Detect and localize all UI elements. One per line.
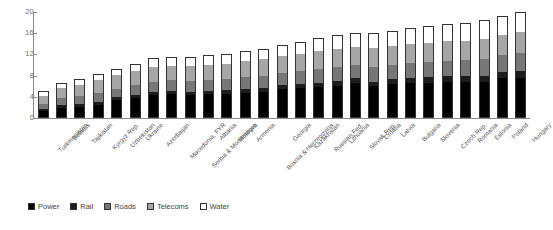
bar-segment-roads [424, 62, 433, 77]
legend-item-power[interactable]: Power [28, 203, 59, 211]
bar-segment-telecoms [278, 56, 287, 73]
bar-segment-water [424, 27, 433, 42]
bar-column [423, 26, 434, 118]
bar-column [148, 58, 159, 118]
bar-segment-roads [241, 77, 250, 89]
bar-column [405, 28, 416, 118]
bar-segment-roads [222, 79, 231, 90]
bar-segment-telecoms [112, 75, 121, 89]
legend-label-rail: Rail [80, 203, 93, 211]
bar-segment-power [131, 98, 140, 117]
bar-segment-roads [314, 69, 323, 82]
bar-segment-water [333, 36, 342, 49]
bar-segment-power [112, 100, 121, 117]
bar-segment-water [222, 55, 231, 64]
bar-segment-power [351, 83, 360, 117]
bar-segment-roads [333, 67, 342, 81]
bar-segment-power [443, 82, 452, 117]
bar-segment-telecoms [167, 66, 176, 80]
legend-label-telecoms: Telecoms [157, 203, 189, 211]
bar-segment-water [480, 21, 489, 38]
legend-swatch-rail [70, 203, 77, 210]
bar-segment-roads [57, 98, 66, 105]
chart-legend: PowerRailRoadsTelecomsWater [28, 203, 229, 211]
bar-column [93, 74, 104, 118]
bar-column [368, 33, 379, 118]
legend-item-water[interactable]: Water [200, 203, 230, 211]
bar-column [442, 24, 453, 118]
legend-item-telecoms[interactable]: Telecoms [147, 203, 189, 211]
x-label-belarus: Belarus [71, 122, 91, 142]
bar-segment-power [333, 86, 342, 117]
bar-segment-water [351, 34, 360, 47]
bar-segment-roads [278, 73, 287, 85]
bar-segment-telecoms [241, 61, 250, 77]
bar-segment-telecoms [333, 49, 342, 67]
bar-segment-power [241, 93, 250, 117]
legend-item-rail[interactable]: Rail [70, 203, 93, 211]
x-label-bulgaria: Bulgaria [420, 122, 441, 143]
bar-segment-telecoms [39, 96, 48, 104]
bar-column [185, 57, 196, 118]
y-tick-label-8: 8 [0, 72, 34, 80]
bar-column [38, 91, 49, 118]
x-label-slovenia: Slovenia [439, 122, 461, 144]
bar-column [277, 45, 288, 118]
legend-label-roads: Roads [114, 203, 136, 211]
bar-segment-telecoms [204, 65, 213, 80]
bar-column [221, 54, 232, 119]
bar-segment-power [222, 94, 231, 117]
bar-segment-roads [149, 82, 158, 92]
x-label-tajikistan: Tajikistan [91, 122, 114, 145]
y-tick-label-16: 16 [0, 29, 34, 37]
bar-segment-power [498, 78, 507, 117]
bar-segment-telecoms [94, 80, 103, 93]
bar-segment-roads [516, 53, 525, 71]
bar-segment-telecoms [461, 41, 470, 61]
bar-segment-water [443, 25, 452, 41]
plot-area [34, 12, 530, 118]
bar-segment-power [516, 78, 525, 117]
y-tick-label-4: 4 [0, 93, 34, 101]
bar-segment-power [57, 108, 66, 117]
legend-swatch-telecoms [147, 203, 154, 210]
y-tick-label-20: 20 [0, 8, 34, 16]
bar-segment-telecoms [314, 51, 323, 70]
bar-segment-power [296, 88, 305, 117]
bar-segment-water [131, 65, 140, 72]
bar-segment-roads [480, 59, 489, 75]
bar-column [387, 31, 398, 118]
bar-segment-water [167, 58, 176, 65]
bar-segment-power [186, 95, 195, 117]
bar-segment-water [259, 50, 268, 60]
bar-segment-power [278, 89, 287, 117]
bar-segment-roads [112, 89, 121, 97]
y-tick-mark-0 [34, 118, 37, 119]
legend-label-power: Power [38, 203, 59, 211]
bar-segment-telecoms [186, 66, 195, 81]
bar-segment-water [516, 13, 525, 32]
bar-segment-telecoms [149, 67, 158, 81]
bar-segment-telecoms [75, 85, 84, 96]
bar-column [203, 55, 214, 118]
bar-segment-telecoms [222, 64, 231, 79]
legend-item-roads[interactable]: Roads [104, 203, 136, 211]
bar-column [479, 20, 490, 118]
x-axis-line [33, 118, 530, 119]
bar-segment-power [94, 105, 103, 117]
bar-segment-telecoms [480, 39, 489, 60]
bar-segment-power [75, 107, 84, 117]
bar-column [56, 83, 67, 118]
bar-segment-water [186, 58, 195, 66]
x-label-moldova: Moldova [237, 122, 259, 144]
bar-segment-water [278, 46, 287, 56]
bar-segment-water [149, 59, 158, 67]
bar-column [497, 16, 508, 118]
bar-segment-telecoms [388, 46, 397, 65]
bar-segment-roads [259, 76, 268, 88]
bar-segment-roads [443, 61, 452, 76]
x-label-azerbaijan: Azerbaijan [165, 122, 191, 148]
bar-segment-telecoms [57, 88, 66, 99]
bar-segment-power [369, 86, 378, 117]
legend-swatch-roads [104, 203, 111, 210]
